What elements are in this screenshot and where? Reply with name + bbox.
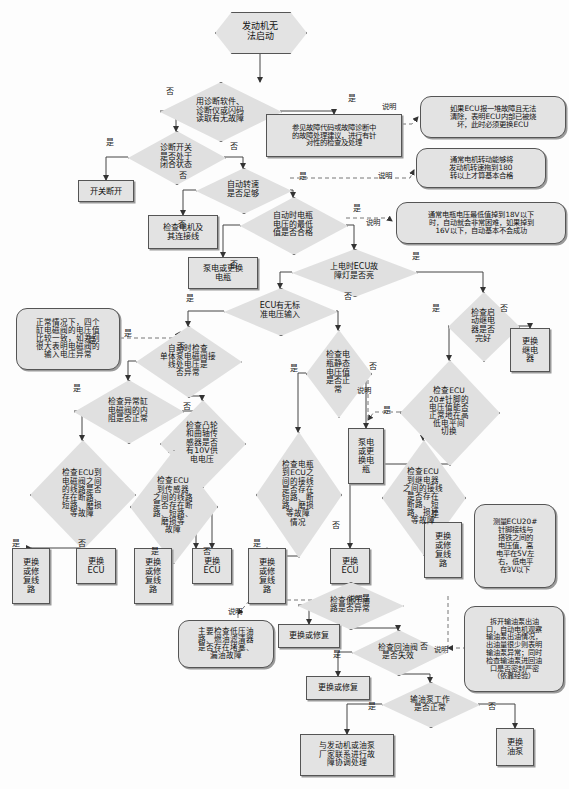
edge-label: 否: [78, 537, 86, 548]
node-switch-open[interactable]: 开关断开: [78, 180, 134, 202]
node-label: 更换 ECU: [331, 557, 369, 575]
node-replace-ecu-3[interactable]: 更换 ECU: [330, 548, 370, 584]
node-label: 诊断开关 是否处于 闭合状态: [128, 144, 224, 170]
node-code-advice[interactable]: 参见故障代码或故障诊断中 的故障处理建议，进行有针 对性的检查及处理: [266, 114, 402, 157]
edge-label: 是: [253, 537, 261, 548]
node-label: 检查回油阀 是否失效: [352, 644, 444, 661]
node-label: 更换 或修 复线 路: [249, 558, 285, 593]
note-label: 正常情况下，四个 缸电磁阀的电压值 比较一致，如差别 很大表明电磁阀的 输入电压…: [17, 319, 119, 360]
note-label: 拆开输油泵出油 口，自动电机观察 输油泵出油情况， 出油量很少则表明 输油泵异常…: [465, 618, 563, 680]
edge-label: 否: [166, 85, 174, 96]
edge-label: 说明: [378, 169, 392, 180]
node-label: 用诊断软件、 诊断仪或闪码 读取有无故障: [160, 98, 280, 124]
node-label: 泵电或更换 电瓶: [189, 264, 257, 282]
node-label: 更换 油泵: [497, 738, 533, 756]
node-fix-wiring-2[interactable]: 更换 或修 复线 路: [134, 548, 172, 604]
edge-label: 是: [124, 327, 132, 338]
node-battery-min-voltage[interactable]: 自动时电瓶 电压的最低 值是否合格: [240, 197, 346, 253]
note-ecu-burned: 如果ECU报一堆故障且无法 清除，表明ECU内部已被烧 坏，此时必须更换ECU: [420, 96, 566, 138]
node-label: 上电时ECU故 障灯是否亮: [292, 263, 416, 280]
node-label: 更换 ECU: [193, 557, 231, 575]
note-label: 主要检查低压油 路、燃油滤清器 是否存在堵塞、 漏油故障: [179, 628, 273, 661]
edge-label: 否: [230, 258, 238, 269]
node-label: 自动时检查 单体泵电磁阀接 线处电压是 否异常: [136, 345, 240, 378]
node-fix-wiring-4[interactable]: 更换 或修 复线 路: [424, 522, 462, 578]
node-replace-or-repair-1[interactable]: 更换或修复: [278, 624, 340, 648]
node-replace-or-repair-2[interactable]: 更换或修复: [306, 676, 370, 700]
note-label: 如果ECU报一堆故障且无法 清除，表明ECU内部已被烧 坏，此时必须更换ECU: [421, 105, 565, 129]
edge-label: 是: [368, 700, 376, 711]
note-solenoid-voltage: 正常情况下，四个 缸电磁阀的电压值 比较一致，如差别 很大表明电磁阀的 输入电压…: [16, 308, 120, 370]
node-label: 与发动机或油泵 厂家联系进行故 障协调处理: [301, 742, 393, 767]
edge-label: 是: [106, 136, 114, 147]
node-low-pressure-line-abnormal[interactable]: 检查低压油 路是否异常: [298, 582, 402, 628]
edge-label: 说明: [382, 100, 396, 111]
node-charge-or-replace-battery-2[interactable]: 泵电 或更 换电 瓶: [348, 428, 384, 484]
note-crank-180rpm: 通常电机转动能够将 发动机转速拖到180 转以上才算基本合格: [416, 148, 546, 188]
node-label: 更换或修复: [279, 632, 339, 641]
edge-label: 是: [88, 334, 96, 345]
node-fix-wiring-3[interactable]: 更换 或修 复线 路: [248, 548, 286, 604]
node-battery-to-ecu-wiring[interactable]: 检查电瓶 到ECU之 间的接线 是否存在 短路、断 路、磨损 等故障 情况: [256, 432, 340, 556]
node-label: 泵电 或更 换电 瓶: [349, 438, 383, 473]
node-label: 输油泵工作 是否正常: [382, 696, 478, 713]
node-start[interactable]: 发动机无 法启动: [215, 12, 305, 52]
edge-label: 是: [412, 250, 420, 261]
node-replace-fuel-pump[interactable]: 更换 油泵: [496, 728, 534, 766]
edge-label: 是: [353, 202, 361, 213]
note-ecu-pin20-measure: 测量ECU20# 针脚接线与 搭铁之间的 电压值，高 电平在5V左 右，低电平 …: [474, 504, 556, 588]
node-label: 检查ECU 到传感器 之间的线路 是否存在断 路、短路、 磨损等 故障: [130, 477, 216, 534]
edge-label: 是: [151, 545, 159, 556]
node-contact-manufacturer[interactable]: 与发动机或油泵 厂家联系进行故 障协调处理: [300, 734, 394, 776]
node-label: 更换 ECU: [77, 557, 115, 575]
node-label: 检查电 瓶静态 电压值 是否正 常: [306, 351, 370, 394]
edge-label: 否: [178, 218, 186, 229]
node-label: 开关断开: [79, 187, 133, 196]
edge-label: 是: [432, 302, 440, 313]
node-charge-or-replace-battery-1[interactable]: 泵电或更换 电瓶: [188, 257, 258, 289]
note-label: 通常电机转动能够将 发动机转速拖到180 转以上才算基本合格: [417, 156, 545, 180]
edge-label: 是: [73, 382, 81, 393]
node-label: 更换 或修 复线 路: [425, 532, 461, 567]
flowchart-canvas: 发动机无 法启动 用诊断软件、 诊断仪或闪码 读取有无故障 参见故障代码或故障诊…: [0, 0, 569, 789]
node-battery-static-voltage[interactable]: 检查电 瓶静态 电压值 是否正 常: [306, 330, 370, 416]
node-label: 自动转速 是否足够: [196, 181, 290, 198]
edge-label: 是: [299, 170, 307, 181]
edge-label: 是: [186, 292, 194, 303]
node-label: 检查ECU到 电磁阀之间 的线路是否 存在断路、 短路、磨损 等故障: [30, 469, 134, 518]
edge-label: 否: [230, 140, 238, 151]
node-ecu-standard-voltage[interactable]: ECU有无标 准电压输入: [224, 288, 336, 334]
edge-label: 否: [179, 169, 187, 180]
node-label: 自动时电瓶 电压的最低 值是否合格: [240, 212, 346, 238]
edge-label: 否: [203, 545, 211, 556]
note-label: 通常电瓶电压最低值掉到18V以下 时，自动就会非常困难，如果掉到 16V以下，自…: [397, 211, 565, 234]
note-low-pressure-line: 主要检查低压油 路、燃油滤清器 是否存在堵塞、 漏油故障: [178, 620, 274, 668]
node-label: 检查启 动继电 器是否 完好: [448, 309, 518, 344]
node-label: 检查ECU 20#针脚的 电压值能否 正常地在高 低电平间 切换: [400, 387, 498, 436]
edge-label: 否: [488, 700, 496, 711]
edge-label: 是: [333, 648, 341, 659]
node-return-valve-failed[interactable]: 检查回油阀 是否失效: [352, 630, 444, 674]
node-label: 更换 或修 复线 路: [13, 558, 49, 593]
node-label: 检查异常缸 电磁阀的内 阻是否正常: [74, 398, 182, 423]
edge-label: 是: [12, 537, 20, 548]
node-label: 参见故障代码或故障诊断中 的故障处理建议，进行有针 对性的检查及处理: [267, 124, 401, 148]
note-fuel-pump-check: 拆开输油泵出油 口，自动电机观察 输油泵出油情况， 出油量很少则表明 输油泵异常…: [464, 606, 564, 692]
node-label: 更换 或修 复线 路: [135, 558, 171, 593]
node-replace-ecu-2[interactable]: 更换 ECU: [192, 548, 232, 584]
node-label: 检查凸轮 和曲轴传 感器是否 有10V供 电电压: [160, 422, 244, 464]
edge-label: 否: [369, 360, 377, 371]
edge-label: 说明: [366, 216, 380, 227]
node-label: 检查电瓶 到ECU之 间的接线 是否存在 短路、断 路、磨损 等故障 情况: [256, 461, 340, 527]
node-label: 检查ECU 到继电器 之间的接线 是否存在 断路、短 路、损坏 等故障: [382, 468, 464, 525]
node-ecu-to-solenoid-wiring[interactable]: 检查ECU到 电磁阀之间 的线路是否 存在断路、 短路、磨损 等故障: [30, 440, 134, 548]
edge-label: 是: [383, 404, 391, 415]
node-fuel-pump-working[interactable]: 输油泵工作 是否正常: [382, 682, 478, 726]
node-label: 发动机无 法启动: [215, 22, 305, 41]
edge-label: 否: [183, 400, 191, 411]
node-fix-wiring-1[interactable]: 更换 或修 复线 路: [12, 548, 50, 604]
node-replace-ecu-1[interactable]: 更换 ECU: [76, 548, 116, 584]
edge-label: 是: [348, 92, 356, 103]
note-label: 测量ECU20# 针脚接线与 搭铁之间的 电压值，高 电平在5V左 右，低电平 …: [475, 518, 555, 574]
node-label: 更换或修复: [307, 684, 369, 693]
